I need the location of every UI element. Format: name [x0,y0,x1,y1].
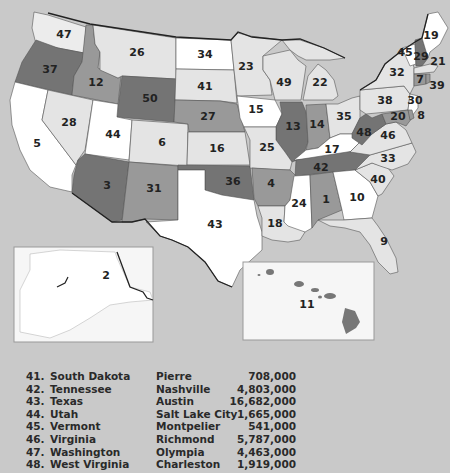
state-number-label: 23 [238,60,253,73]
state-number-label: 30 [407,94,423,107]
state-number-label: 6 [158,136,166,149]
state-number-label: 21 [430,55,445,68]
state-number-label: 32 [389,66,404,79]
row-number: 44. [26,408,45,421]
capital-name: Pierre [156,370,192,383]
row-number: 45. [26,420,45,433]
row-number: 42. [26,383,45,396]
population-value: 708,000 [222,370,296,383]
state-name: West Virginia [50,458,129,471]
state-number-label: 35 [336,110,351,123]
state-number-label: 33 [380,152,395,165]
population-value: 1,919,000 [222,458,296,471]
state-number-label: 39 [429,79,444,92]
state-number-label: 27 [200,110,215,123]
state-number-label: 9 [380,235,388,248]
state-number-label: 34 [197,48,213,61]
row-number: 47. [26,446,45,459]
state-number-label: 44 [105,128,121,141]
state-number-label: 26 [129,46,145,59]
state-number-label: 4 [267,177,275,190]
capital-name: Richmond [156,433,215,446]
state-number-label: 15 [248,103,263,116]
state-number-label: 13 [285,120,300,133]
state-number-label: 22 [312,76,327,89]
state-name: Tennessee [50,383,112,396]
state-number-label: 3 [103,179,111,192]
state-number-label: 50 [142,92,158,105]
state-number-label: 42 [313,161,328,174]
population-value: 1,665,000 [222,408,296,421]
state-number-label: 19 [423,29,438,42]
state-name: Utah [50,408,78,421]
state-number-label: 24 [291,197,307,210]
state-number-label: 38 [377,94,392,107]
state-number-label: 48 [356,126,371,139]
capital-name: Austin [156,395,194,408]
population-value: 541,000 [222,420,296,433]
population-value: 16,682,000 [222,395,296,408]
state-number-label: 49 [276,76,291,89]
population-value: 4,803,000 [222,383,296,396]
population-value: 4,463,000 [222,446,296,459]
state-name: Vermont [50,420,101,433]
capital-name: Nashville [156,383,210,396]
state-number-label: 16 [209,142,225,155]
state-number-label: 25 [259,141,274,154]
state-number-label: 43 [207,218,222,231]
row-number: 41. [26,370,45,383]
state-number-label: 5 [33,137,41,150]
state-number-label: 46 [380,129,396,142]
state-number-label: 8 [417,109,425,122]
capital-name: Olympia [156,446,205,459]
state-number-label: 40 [370,173,386,186]
state-number-label: 28 [61,116,76,129]
state-number-label: 47 [56,28,71,41]
state-number-label: 29 [413,50,428,63]
state-number-label: 18 [267,217,282,230]
state-number-label: 17 [324,143,339,156]
state-number-label: 11 [299,298,314,311]
population-value: 5,787,000 [222,433,296,446]
row-number: 48. [26,458,45,471]
state-name: South Dakota [50,370,130,383]
us-states-map: 4737122650344127285446163313643234922151… [0,0,450,355]
alaska-inset [14,247,153,342]
state-number-label: 7 [416,73,424,86]
state-number-label: 1 [322,193,330,206]
state-number-label: 2 [102,269,110,282]
state-name: Virginia [50,433,96,446]
state-number-label: 41 [197,80,212,93]
state-number-label: 20 [390,110,406,123]
state-number-label: 10 [349,191,365,204]
state-number-label: 14 [309,118,325,131]
capital-name: Charleston [156,458,220,471]
state-number-label: 12 [88,76,103,89]
row-number: 43. [26,395,45,408]
state-number-label: 45 [397,46,412,59]
row-number: 46. [26,433,45,446]
state-name: Texas [50,395,83,408]
state-arizona[interactable] [72,154,129,222]
state-name: Washington [50,446,120,459]
capital-name: Montpelier [156,420,220,433]
state-number-label: 36 [225,175,241,188]
state-number-label: 31 [146,182,161,195]
state-number-label: 37 [42,63,57,76]
